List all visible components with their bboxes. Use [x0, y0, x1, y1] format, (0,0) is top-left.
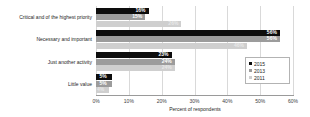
bar-row: 46% [96, 43, 293, 49]
bar-2015-1[interactable] [96, 30, 280, 36]
x-axis-title: Percent of respondents [96, 106, 294, 112]
bar-row: 15% [96, 14, 293, 20]
category-label: Just another activity [0, 59, 92, 65]
x-tick-label: 20% [157, 98, 167, 104]
legend-label-2015: 2015 [254, 61, 265, 67]
legend-item-2015[interactable]: 2015 [249, 60, 289, 67]
bar-group: Necessary and important56%56%46% [96, 30, 293, 49]
x-tick-label: 10% [124, 98, 134, 104]
bar-chart: Critical and of the highest priority16%1… [0, 0, 310, 117]
legend-item-2013[interactable]: 2013 [249, 67, 289, 74]
x-tick-label: 50% [255, 98, 265, 104]
legend-item-2011[interactable]: 2011 [249, 74, 289, 81]
grid-line [293, 6, 294, 95]
bar-value-label: 24% [162, 64, 172, 71]
x-tick-label: 0% [92, 98, 99, 104]
bar-value-label: 26% [168, 20, 178, 27]
bar-row: 16% [96, 8, 293, 14]
category-label: Necessary and important [0, 36, 92, 42]
bar-value-label: 15% [132, 13, 142, 20]
chart-legend: 2015 2013 2011 [245, 57, 290, 84]
legend-swatch-2011 [249, 76, 252, 79]
bar-row: 56% [96, 36, 293, 42]
bar-row: 26% [96, 21, 293, 27]
category-label: Critical and of the highest priority [0, 14, 92, 20]
bar-2011-1[interactable] [96, 43, 247, 49]
bar-value-label: 46% [234, 42, 244, 49]
bar-2013-1[interactable] [96, 36, 280, 42]
bar-value-label: 4% [97, 86, 104, 93]
bar-group: Critical and of the highest priority16%1… [96, 8, 293, 27]
bar-value-label: 56% [267, 35, 277, 42]
bar-row: 4% [96, 87, 293, 93]
bar-row: 56% [96, 30, 293, 36]
x-tick-label: 30% [189, 98, 199, 104]
legend-label-2011: 2011 [254, 75, 265, 81]
x-tick-label: 60% [288, 98, 298, 104]
legend-label-2013: 2013 [254, 68, 265, 74]
x-tick-label: 40% [222, 98, 232, 104]
x-axis-line [96, 95, 294, 96]
category-label: Little value [0, 81, 92, 87]
legend-swatch-2015 [249, 62, 252, 65]
legend-swatch-2013 [249, 69, 252, 72]
